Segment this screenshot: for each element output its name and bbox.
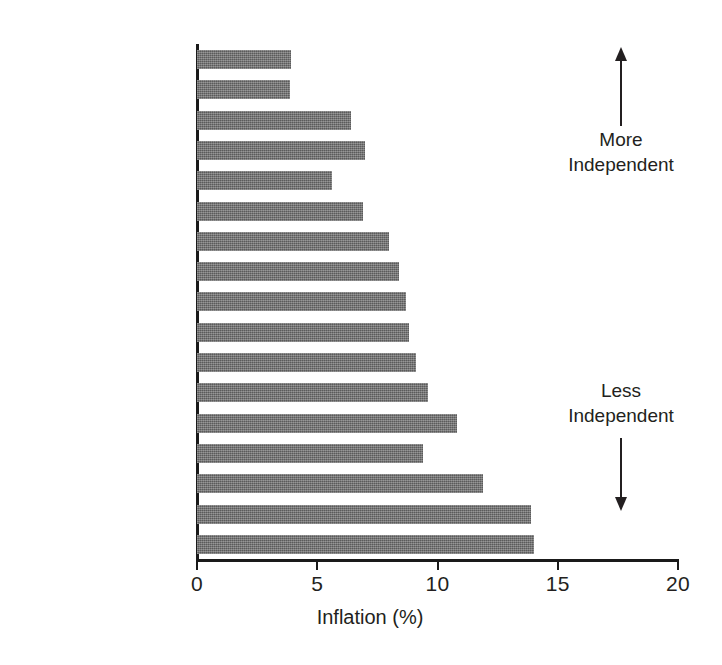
x-axis-tick-label: 5 [311, 572, 323, 596]
annotation-less-independent: Less Independent [530, 378, 712, 428]
bar-chart-figure: SwitzerlandGermanyJapanUnited StatesNeth… [0, 0, 722, 665]
bar [197, 444, 423, 463]
bar [197, 202, 363, 221]
bar-row: Norway [197, 257, 678, 287]
annotation-more-independent: More Independent [530, 127, 712, 177]
bar-row: Canada [197, 227, 678, 257]
x-axis-tick [316, 561, 318, 570]
x-axis-tick [437, 561, 439, 570]
arrow-up-icon [615, 47, 627, 61]
bar-row: New Zealand [197, 469, 678, 499]
bar [197, 535, 534, 554]
x-axis-tick [196, 561, 198, 570]
bar-row: Italy [197, 530, 678, 560]
bar [197, 414, 457, 433]
bar-row: Spain [197, 500, 678, 530]
annotation-more-line2: Independent [530, 152, 712, 177]
arrow-down-icon [615, 497, 627, 511]
annotation-less-line2: Independent [530, 403, 712, 428]
x-axis-tick-label: 20 [666, 572, 690, 596]
bar-row: Switzerland [197, 45, 678, 75]
bar [197, 232, 389, 251]
bar [197, 171, 332, 190]
bar-row: Germany [197, 75, 678, 105]
bar [197, 323, 409, 342]
bar [197, 383, 428, 402]
bar-row: Belgium [197, 197, 678, 227]
x-axis-tick-label: 0 [191, 572, 203, 596]
annotation-less-line1: Less [530, 378, 712, 403]
x-axis-tick-label: 15 [546, 572, 570, 596]
arrow-down-icon-shaft [620, 438, 622, 500]
bar [197, 80, 290, 99]
plot-area: SwitzerlandGermanyJapanUnited StatesNeth… [197, 45, 678, 560]
bar-row: Denmark [197, 318, 678, 348]
x-axis-tick-label: 10 [426, 572, 450, 596]
annotation-more-line1: More [530, 127, 712, 152]
x-axis-tick [677, 561, 679, 570]
bar [197, 111, 351, 130]
bar-row: France [197, 348, 678, 378]
bar [197, 262, 399, 281]
bar [197, 141, 365, 160]
arrow-up-icon-shaft [620, 58, 622, 126]
x-axis-tick [557, 561, 559, 570]
bar-row: Australia [197, 439, 678, 469]
bar [197, 505, 531, 524]
bar-row: Sweden [197, 287, 678, 317]
x-axis-title: Inflation (%) [0, 606, 722, 629]
bar [197, 50, 291, 69]
bar [197, 353, 416, 372]
bar [197, 292, 406, 311]
bar [197, 474, 483, 493]
